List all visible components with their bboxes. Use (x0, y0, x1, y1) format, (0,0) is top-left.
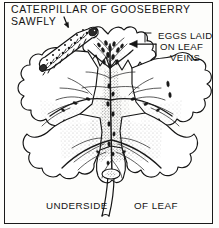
annotation-eggs-line1: EGGS LAID (158, 31, 212, 41)
caption-underside-right: OF LEAF (134, 201, 178, 212)
caption-caterpillar-line1: CATERPILLAR OF GOOSEBERRY (11, 4, 191, 15)
illustration-figure: CATERPILLAR OF GOOSEBERRY SAWFLY EGGS LA… (0, 0, 219, 228)
caption-underside-left: UNDERSIDE (46, 201, 108, 212)
caption-caterpillar-line2: SAWFLY (11, 16, 56, 27)
annotation-eggs-line3: VEINS (170, 53, 200, 63)
annotation-eggs-line2: ON LEAF (160, 42, 203, 52)
